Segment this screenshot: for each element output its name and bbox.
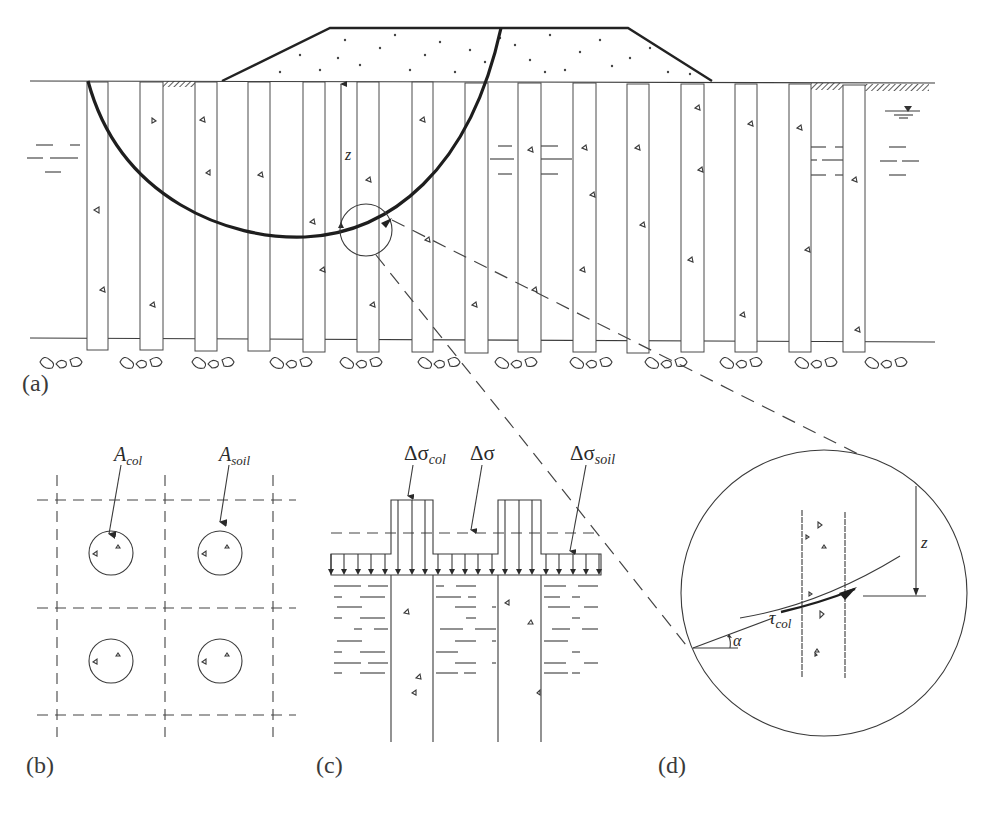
depth-symbol-d: z <box>920 533 928 552</box>
panel-c-stress-distribution: Δσcol Δσ Δσsoil <box>328 441 615 742</box>
slip-curve-detail <box>740 556 900 618</box>
columns-section <box>391 575 541 742</box>
soil-stress-pointer <box>570 465 586 551</box>
average-stress-pointer <box>471 465 482 530</box>
area-soil-label: Asoil <box>217 443 250 468</box>
surface-hatch <box>865 84 929 91</box>
water-table-icon <box>885 106 920 118</box>
shear-direction-arrow <box>839 587 857 600</box>
column-circle <box>89 531 133 575</box>
average-stress-label: Δσ <box>470 441 495 465</box>
gravel-layer <box>40 357 907 368</box>
surface-hatch <box>811 83 843 90</box>
soil-stress-label: Δσsoil <box>570 441 615 467</box>
stress-arrows <box>328 500 602 575</box>
embankment <box>222 28 712 81</box>
column-circle <box>198 639 242 683</box>
soil-hatching <box>334 586 598 673</box>
column-circle <box>89 639 133 683</box>
angle-symbol: α <box>733 632 742 649</box>
depth-symbol-a: z <box>344 146 352 163</box>
panel-a-cross-section: z <box>27 28 935 368</box>
panel-label-a: (a) <box>22 370 49 397</box>
panel-b-plan-view: Acol Asoil <box>37 443 296 737</box>
detail-circle <box>681 450 967 736</box>
panel-d-detail: α τcol z <box>681 450 967 736</box>
surface-hatch <box>163 81 195 87</box>
column-circle <box>198 531 242 575</box>
panel-label-b: (b) <box>26 752 54 779</box>
area-column-label: Acol <box>112 443 142 468</box>
column-stress-label: Δσcol <box>404 441 446 467</box>
column-stress-pointer <box>408 465 413 496</box>
soil-area-pointer <box>220 465 229 522</box>
panel-label-d: (d) <box>658 752 686 779</box>
panel-label-c: (c) <box>316 752 343 779</box>
